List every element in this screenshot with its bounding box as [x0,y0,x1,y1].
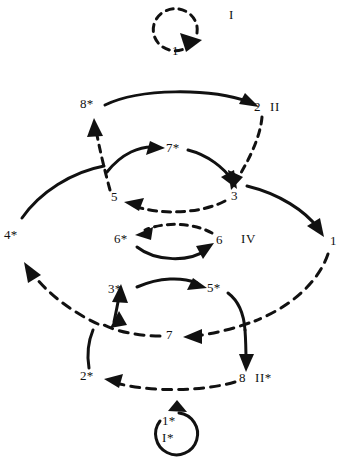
diagram-svg: .ln{fill:none;stroke:#111111;stroke-line… [0,0,337,461]
node-label-1-top: 1 [172,44,179,57]
node-label-5: 5 [111,190,118,203]
node-label-2: 2 [254,100,261,113]
node-label-3: 3 [231,189,238,202]
edge-4star-to-5-outer [22,166,104,218]
node-label-1-right: 1 [330,234,337,247]
edge-5star-to-8 [228,293,254,372]
cycle-label-IIstar: II* [255,371,272,384]
node-label-7: 7 [166,328,173,341]
diagram-canvas: .ln{fill:none;stroke:#111111;stroke-line… [0,0,337,461]
cycle-label-II: II [270,100,280,113]
node-label-7star: 7* [166,141,180,154]
node-label-6star: 6* [114,232,128,245]
edge-8star-to-2 [105,92,259,107]
cycle-label-I: I [229,8,234,21]
edge-7star-to-3 [188,150,237,189]
edge-3-to-1right-outer [247,186,324,237]
node-label-2star: 2* [80,369,94,382]
edge-1right-to-7-outer [183,254,328,344]
node-label-8: 8 [239,371,246,384]
cycle-label-IV: IV [241,232,256,245]
edge-8-to-2star [104,374,235,390]
node-label-3star: 3* [108,282,122,295]
node-label-1star: 1* [162,414,176,427]
cycle-label-Istar: I* [162,431,174,444]
edge-5-to-8star [87,118,110,190]
edge-3-to-5 [124,198,225,212]
node-label-6: 6 [216,233,223,246]
edge-3star-to-4star-outer [24,262,98,324]
edge-6star-to-6-IV [137,243,214,259]
node-label-5star: 5* [207,281,221,294]
edge-3star-to-5star [137,278,207,290]
edge-6-to-6star-IV [135,224,212,240]
node-label-8star: 8* [80,97,94,110]
edge-5-to-7star [107,141,165,172]
node-label-4star: 4* [4,228,18,241]
edge-2star-to-3star [88,330,93,368]
